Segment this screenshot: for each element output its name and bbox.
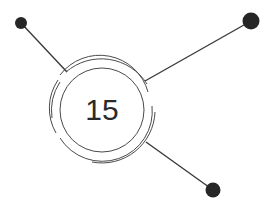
node-top-left xyxy=(15,17,27,29)
center-number: 15 xyxy=(62,92,142,128)
connector-top-left xyxy=(21,23,67,72)
node-top-right xyxy=(243,13,260,30)
connector-bottom-right xyxy=(146,142,213,190)
connector-top-right xyxy=(145,21,251,81)
outer-arc-6 xyxy=(51,82,60,118)
node-bottom-right xyxy=(206,183,221,198)
